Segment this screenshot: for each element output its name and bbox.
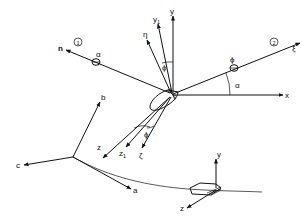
blade2-number: 2: [273, 40, 276, 46]
vehicle-frame: y z: [180, 150, 221, 213]
zeta-axis: [142, 97, 171, 148]
vehicle-y-axis-label: y: [217, 150, 221, 159]
a-axis-label: a: [133, 186, 138, 195]
vehicle-z-axis-label: z: [180, 204, 184, 213]
b-axis: [73, 102, 100, 157]
z-axis: [103, 97, 170, 158]
x-axis-label: x: [285, 91, 289, 100]
z1-axis-label: z1: [119, 149, 126, 159]
n-axis-label: n: [58, 44, 63, 53]
y1-axis-label: y1: [153, 15, 160, 25]
c-axis: [24, 157, 73, 165]
y1-axis: [158, 24, 172, 93]
c-axis-label: c: [16, 161, 20, 170]
y-axis-label: y: [170, 7, 174, 16]
phi-lower-label: ϕ: [144, 130, 149, 139]
main-frame: x y y1 η n ξ z z1 ζ α ϕ: [58, 7, 300, 160]
z-axis-label: z: [97, 143, 101, 152]
alpha-angle-label: α: [235, 81, 240, 90]
blade2-phi-label: ϕ: [230, 55, 235, 64]
blade1-number: 1: [77, 40, 80, 46]
kinematics-diagram: x y y1 η n ξ z z1 ζ α ϕ: [0, 0, 302, 220]
ground-frame: b c a: [16, 93, 262, 195]
trajectory-curve: [73, 157, 262, 192]
alpha-arc: [226, 73, 230, 95]
z1-axis: [126, 97, 170, 147]
b-axis-label: b: [101, 93, 106, 102]
blade1-alpha-label: α: [96, 50, 101, 59]
zeta-axis-label: ζ: [139, 151, 143, 160]
hub-blade-root: [150, 90, 178, 110]
phi-upper-label: ϕ: [162, 63, 167, 72]
eta-axis-label: η: [143, 30, 147, 39]
xi-axis-label: ξ: [292, 44, 296, 53]
